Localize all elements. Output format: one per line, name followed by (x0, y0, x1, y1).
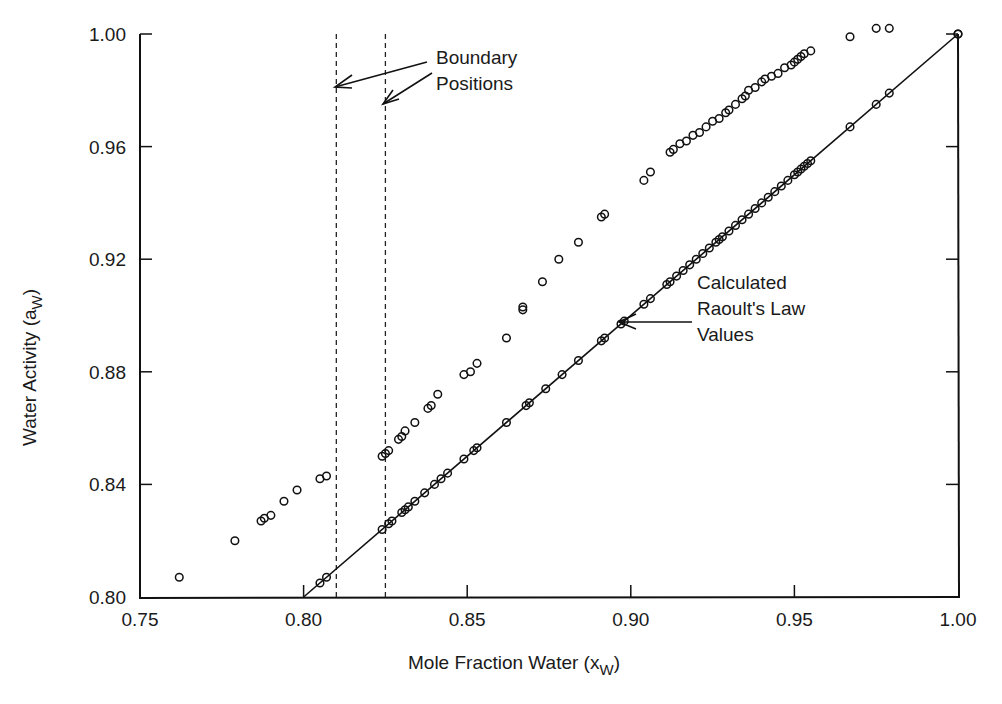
boundary-label-line1: Boundary (436, 47, 518, 68)
measured-point (846, 33, 854, 41)
measured-points (175, 25, 961, 582)
boundary-arrows (335, 62, 432, 104)
y-tick-label: 0.84 (89, 474, 126, 495)
x-axis-title: Mole Fraction Water (xW) (408, 652, 620, 678)
x-tick-label: 0.90 (612, 609, 649, 630)
measured-point (751, 84, 759, 92)
y-tick-label: 0.96 (89, 137, 126, 158)
measured-point (696, 129, 704, 137)
measured-point (555, 255, 563, 263)
measured-point (732, 101, 740, 109)
measured-point (575, 239, 583, 247)
measured-point (231, 537, 239, 545)
measured-point (467, 368, 475, 376)
measured-point (715, 115, 723, 123)
measured-point (683, 137, 691, 145)
x-axis-bottom (139, 597, 960, 598)
y-tick-label: 1.00 (89, 24, 126, 45)
boundary-lines (336, 34, 385, 597)
measured-point (647, 168, 655, 176)
boundary-annotation: Boundary Positions (335, 47, 518, 104)
measured-point (267, 512, 275, 520)
x-tick-label: 1.00 (940, 609, 977, 630)
measured-point (175, 573, 183, 581)
measured-point (411, 419, 419, 427)
measured-point (280, 497, 288, 505)
raoult-label-line2: Raoult's Law (697, 298, 805, 319)
measured-point (885, 25, 893, 33)
y-tick-label: 0.92 (89, 249, 126, 270)
measured-point (539, 278, 547, 286)
x-tick-label: 0.95 (776, 609, 813, 630)
y-tick-label: 0.80 (89, 587, 126, 608)
measured-point (774, 70, 782, 78)
measured-point (503, 334, 511, 342)
x-tick-label: 0.85 (449, 609, 486, 630)
raoult-arrow (619, 314, 692, 329)
measured-point (807, 47, 815, 55)
axes (139, 34, 960, 598)
measured-point (293, 486, 301, 494)
y-tick-label: 0.88 (89, 362, 126, 383)
measured-point (323, 472, 331, 480)
x-tick-label: 0.80 (285, 609, 322, 630)
tick-labels: 0.750.800.850.900.951.000.800.840.880.92… (89, 24, 976, 630)
raoult-label-line1: Calculated (697, 272, 787, 293)
axis-ticks (140, 34, 958, 597)
boundary-label-line2: Positions (436, 73, 513, 94)
raoult-annotation: Calculated Raoult's Law Values (619, 272, 805, 345)
measured-point (872, 25, 880, 33)
water-activity-chart: 0.750.800.850.900.951.000.800.840.880.92… (0, 0, 1002, 704)
y-axis-right (958, 34, 959, 598)
measured-point (434, 391, 442, 399)
measured-point (702, 123, 710, 131)
x-tick-label: 0.75 (122, 609, 159, 630)
measured-point (473, 360, 481, 368)
y-axis-title: Water Activity (aW) (19, 289, 45, 446)
raoult-label-line3: Values (697, 324, 754, 345)
measured-point (640, 177, 648, 185)
